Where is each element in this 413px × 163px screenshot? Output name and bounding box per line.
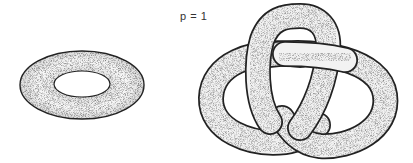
trefoil-knot-shape — [211, 16, 385, 146]
torus-shape — [20, 51, 144, 119]
diagram-canvas — [0, 0, 413, 163]
knot-crossing-over — [285, 54, 345, 60]
